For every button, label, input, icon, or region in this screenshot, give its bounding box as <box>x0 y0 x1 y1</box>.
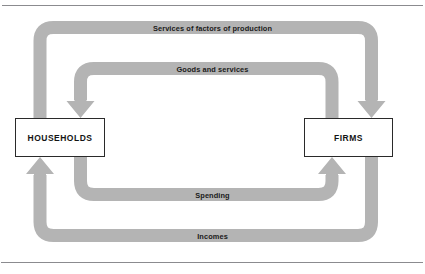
flow-label-spending: Spending <box>0 191 425 200</box>
entity-label-households: HOUSEHOLDS <box>28 133 93 143</box>
horizontal-rule-bottom <box>1 262 423 263</box>
flow-label-incomes: Incomes <box>0 232 425 241</box>
entity-box-households: HOUSEHOLDS <box>15 118 105 157</box>
entity-label-firms: FIRMS <box>334 133 363 143</box>
flow-label-goods-and-services: Goods and services <box>0 65 425 74</box>
flow-label-services-of-factors: Services of factors of production <box>0 24 425 33</box>
flow-band-goods-and-services <box>67 69 333 119</box>
flow-band-spending <box>81 157 347 195</box>
entity-box-firms: FIRMS <box>304 118 393 157</box>
circular-flow-diagram: Services of factors of production Goods … <box>0 0 425 274</box>
